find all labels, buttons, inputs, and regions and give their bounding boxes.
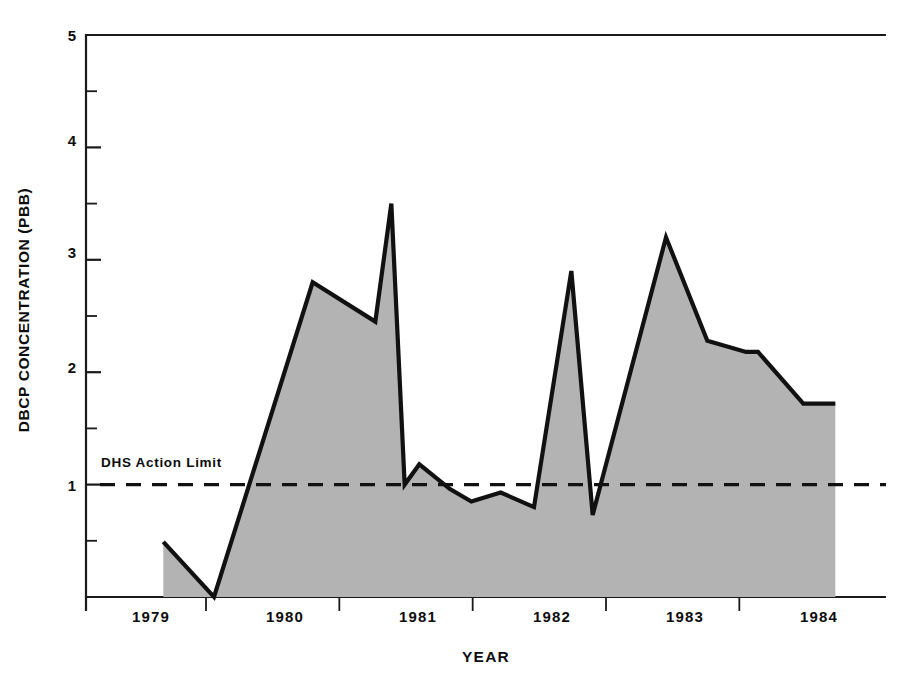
data-area-fill: [163, 204, 835, 597]
chart-figure: DBCP CONCENTRATION (PBB) 5 4 3 2 1 1979 …: [0, 0, 911, 688]
chart-plot-area: [0, 0, 911, 688]
